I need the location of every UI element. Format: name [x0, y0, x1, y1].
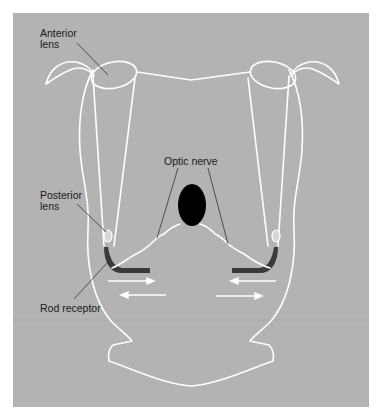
anterior-lens-label-line2: lens — [40, 39, 77, 50]
posterior-lens-label: Posterior lens — [40, 190, 82, 212]
left-posterior-lens — [104, 230, 112, 242]
rod-receptor-label: Rod receptor — [40, 303, 101, 314]
anterior-lens-label: Anterior lens — [40, 28, 77, 50]
posterior-lens-label-line2: lens — [40, 201, 82, 212]
optic-ganglion — [178, 184, 206, 226]
right-posterior-lens — [272, 230, 280, 242]
optic-nerve-label: Optic nerve — [164, 156, 218, 167]
